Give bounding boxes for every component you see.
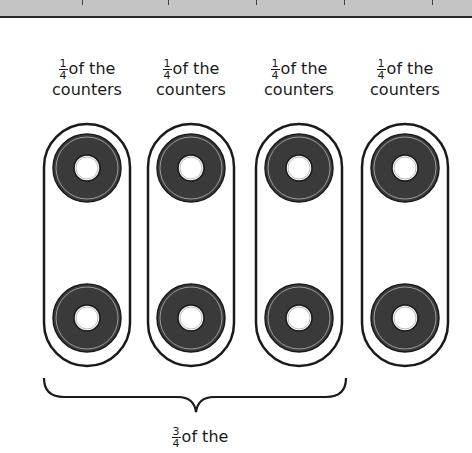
grouping-brace (44, 378, 346, 412)
counters-diagram (0, 0, 472, 453)
counter-icon (53, 284, 121, 352)
brace-label: 34of the (150, 426, 250, 449)
fraction: 34 (172, 426, 181, 449)
counter-icon (371, 134, 439, 202)
counter-icon (371, 284, 439, 352)
label-text: of the (182, 427, 229, 446)
counter-icon (157, 284, 225, 352)
counter-icon (265, 134, 333, 202)
counter-icon (265, 284, 333, 352)
counter-icon (157, 134, 225, 202)
denominator: 4 (172, 438, 181, 449)
counter-icon (53, 134, 121, 202)
